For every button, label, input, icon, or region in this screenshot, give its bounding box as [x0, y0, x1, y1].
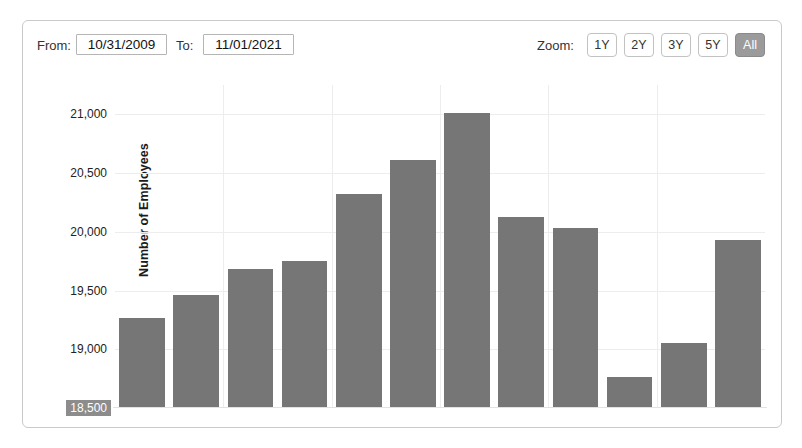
zoom-button-1y[interactable]: 1Y	[587, 33, 617, 57]
zoom-button-all[interactable]: All	[735, 33, 765, 57]
bar[interactable]	[553, 228, 599, 408]
gridline-vertical	[657, 85, 658, 408]
bar[interactable]	[498, 217, 544, 408]
from-date-input[interactable]	[76, 34, 167, 55]
bar[interactable]	[119, 318, 165, 408]
bar[interactable]	[715, 240, 761, 408]
y-tick-label: 19,500	[70, 284, 107, 298]
to-date-input[interactable]	[203, 34, 294, 55]
gridline-vertical	[223, 85, 224, 408]
bar[interactable]	[282, 261, 328, 408]
bar[interactable]	[661, 343, 707, 408]
gridline-vertical	[548, 85, 549, 408]
y-tick-label: 20,000	[70, 225, 107, 239]
from-label: From:	[37, 35, 71, 57]
zoom-button-2y[interactable]: 2Y	[624, 33, 654, 57]
bar[interactable]	[173, 295, 219, 408]
bar-chart-plot-area: Number of Employees 18,50019,00019,50020…	[115, 85, 765, 408]
bar[interactable]	[336, 194, 382, 408]
zoom-button-3y[interactable]: 3Y	[661, 33, 691, 57]
bar[interactable]	[607, 377, 653, 408]
x-axis-baseline	[113, 407, 767, 408]
bar[interactable]	[444, 113, 490, 408]
bar[interactable]	[390, 160, 436, 408]
y-tick-label: 19,000	[70, 342, 107, 356]
y-axis-title: Number of Employees	[137, 115, 151, 305]
gridline-vertical	[332, 85, 333, 408]
bar[interactable]	[228, 269, 274, 408]
zoom-label: Zoom:	[537, 35, 574, 57]
to-label: To:	[176, 35, 193, 57]
zoom-button-5y[interactable]: 5Y	[698, 33, 728, 57]
gridline-vertical	[440, 85, 441, 408]
y-tick-label: 21,000	[70, 107, 107, 121]
chart-toolbar: From: To: Zoom: 1Y 2Y 3Y 5Y All	[23, 21, 781, 69]
y-tick-label: 18,500	[66, 400, 111, 416]
chart-widget: From: To: Zoom: 1Y 2Y 3Y 5Y All Number o…	[22, 20, 782, 428]
y-tick-label: 20,500	[70, 166, 107, 180]
